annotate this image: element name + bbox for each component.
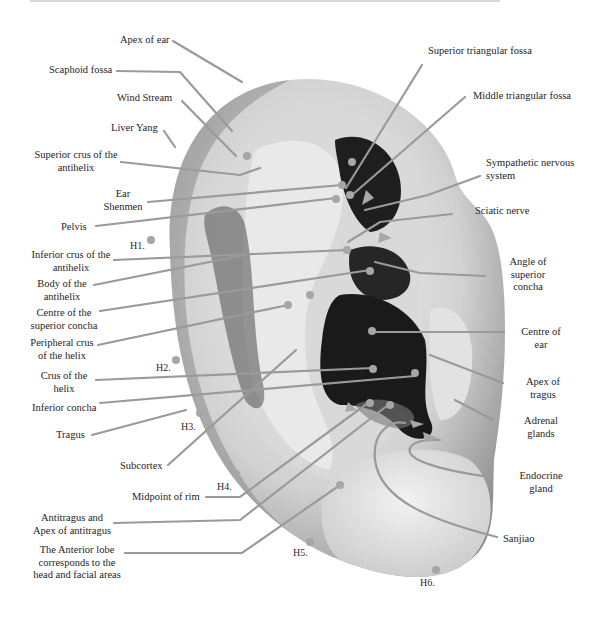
label-apex-of-tragus: Apex of tragus [520, 376, 566, 401]
label-sciatic-nerve: Sciatic nerve [475, 205, 530, 218]
label-inferior-crus-antihelix: Inferior crus of the antihelix [30, 249, 112, 274]
label-body-antihelix: Body of the antihelix [33, 278, 91, 303]
marker-h2: H2. [156, 362, 171, 373]
label-sympathetic-nervous-system: Sympathetic nervous system [486, 157, 574, 182]
label-peripheral-crus-helix: Peripheral crus of the helix [30, 337, 94, 362]
marker-h4: H4. [217, 481, 232, 492]
label-antitragus: Antitragus and Apex of antitragus [32, 512, 112, 537]
label-centre-of-ear: Centre of ear [515, 326, 567, 351]
label-inferior-concha: Inferior concha [32, 402, 96, 415]
label-subcortex: Subcortex [120, 460, 163, 473]
label-apex-of-ear: Apex of ear [120, 34, 170, 47]
label-sanjiao: Sanjiao [503, 533, 535, 546]
label-pelvis: Pelvis [61, 221, 87, 234]
label-scaphoid-fossa: Scaphoid fossa [49, 64, 112, 77]
label-middle-triangular-fossa: Middle triangular fossa [473, 90, 571, 103]
label-liver-yang: Liver Yang [111, 122, 158, 135]
label-centre-superior-concha: Centre of the superior concha [30, 307, 98, 332]
marker-h3: H3. [181, 421, 196, 432]
label-superior-crus-antihelix: Superior crus of the antihelix [33, 149, 119, 174]
ear-acupoint-diagram: Apex of ear Scaphoid fossa Wind Stream L… [0, 0, 601, 618]
marker-h1: H1. [130, 240, 145, 251]
label-anterior-lobe: The Anterior lobe corresponds to the hea… [32, 544, 122, 582]
marker-h6: H6. [420, 577, 435, 588]
label-endocrine-gland: Endocrine gland [513, 470, 569, 495]
label-midpoint-of-rim: Midpoint of rim [132, 491, 200, 504]
label-crus-helix: Crus of the helix [38, 370, 90, 395]
label-adrenal-glands: Adrenal glands [518, 415, 564, 440]
label-angle-superior-concha: Angle of superior concha [500, 256, 556, 294]
label-superior-triangular-fossa: Superior triangular fossa [428, 45, 532, 58]
label-wind-stream: Wind Stream [117, 92, 172, 105]
marker-h5: H5. [293, 547, 308, 558]
label-tragus: Tragus [56, 429, 85, 442]
label-ear-shenmen: Ear Shenmen [100, 188, 146, 213]
